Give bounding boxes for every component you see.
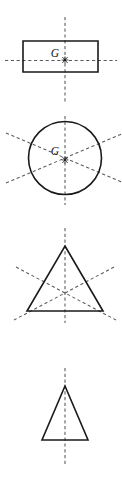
circle-centroid-asterisk [62, 156, 69, 163]
symmetry-figures-sheet: G G [0, 0, 122, 477]
figure-isosceles-triangle [42, 368, 88, 465]
rectangle-centroid-label: G [51, 47, 60, 59]
rectangle-centroid-asterisk [62, 56, 69, 63]
circle-centroid-label: G [51, 145, 60, 157]
figure-rectangle: G [5, 17, 117, 103]
figures-canvas: G G [0, 0, 122, 477]
figure-equilateral-triangle [14, 228, 116, 323]
figure-circle: G [6, 116, 122, 205]
rectangle-outline [23, 41, 98, 72]
equilateral-triangle-axis-left [16, 267, 116, 320]
equilateral-triangle-axis-right [14, 267, 114, 320]
